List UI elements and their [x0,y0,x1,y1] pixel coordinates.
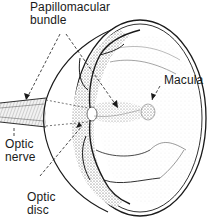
optic-nerve-shape [0,98,46,127]
label-optic-nerve-line2: nerve [5,151,36,164]
label-optic-nerve: Optic nerve [5,138,36,164]
label-papillomacular-line2: bundle [30,14,110,27]
label-macula: Macula [164,74,203,87]
label-papillomacular: Papillomacular bundle [30,1,110,27]
eye-diagram: Papillomacular bundle Macula Optic nerve… [0,0,211,223]
macula-spot [141,104,155,120]
optic-disc-shape [87,107,97,121]
label-optic-disc-line2: disc [27,204,56,217]
label-optic-disc: Optic disc [27,191,56,217]
